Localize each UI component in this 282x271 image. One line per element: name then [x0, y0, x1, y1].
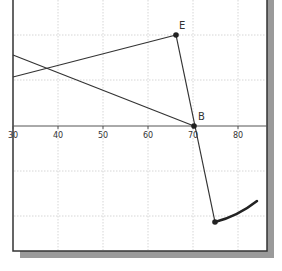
point-E	[173, 32, 179, 38]
x-tick-label: 80	[233, 131, 243, 140]
x-tick-label: 40	[53, 131, 63, 140]
x-tick-label: 50	[98, 131, 108, 140]
point-B	[191, 123, 197, 129]
point-label-B: B	[198, 111, 205, 122]
x-tick-label: 30	[8, 131, 18, 140]
x-tick-label: 60	[143, 131, 153, 140]
point-P	[212, 219, 218, 225]
point-label-E: E	[179, 20, 185, 31]
diagram-plot: 304050607080 EB	[0, 0, 282, 271]
